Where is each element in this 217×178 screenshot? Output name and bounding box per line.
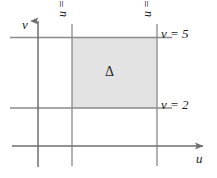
figure-container: v u u = 1 u = 4 v = 5 v = 2 Δ <box>0 0 217 178</box>
gridline-label-u-1: u = 1 <box>56 0 68 17</box>
region-delta-shading <box>72 38 157 109</box>
gridline-label-v-2: v = 2 <box>161 98 189 111</box>
v-axis-label: v <box>22 18 28 31</box>
gridline-label-u-4: u = 4 <box>141 0 153 17</box>
u-axis-label: u <box>196 152 203 165</box>
gridline-label-v-5: v = 5 <box>161 27 189 40</box>
region-delta-label: Δ <box>105 65 114 79</box>
